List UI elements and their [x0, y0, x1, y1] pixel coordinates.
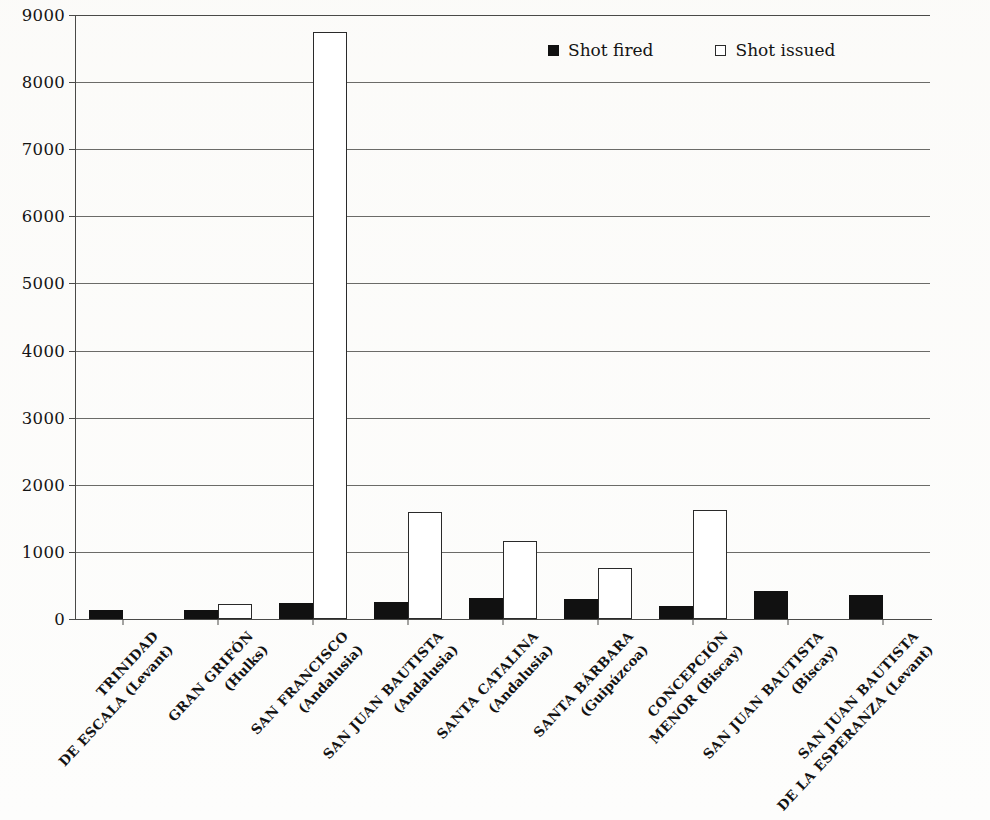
bar-group — [170, 15, 265, 619]
bar-chart: 0100020003000400050006000700080009000 TR… — [0, 0, 990, 820]
bar-shot-fired — [469, 598, 503, 619]
bar-shot-issued — [313, 32, 347, 619]
bar-shot-issued — [408, 512, 442, 619]
legend-label: Shot fired — [568, 40, 653, 60]
y-tick-label: 1000 — [22, 542, 65, 561]
bars-layer — [75, 15, 930, 619]
x-label-line: TRINIDAD — [39, 627, 163, 757]
x-axis-label: TRINIDADDE ESCALA (Levant) — [39, 627, 177, 771]
bar-group — [360, 15, 455, 619]
bar-group — [645, 15, 740, 619]
x-axis-labels: TRINIDADDE ESCALA (Levant)GRAN GRIFÓN(Hu… — [75, 619, 930, 820]
bar-group — [75, 15, 170, 619]
bar-group — [265, 15, 360, 619]
bar-shot-fired — [659, 606, 693, 619]
legend-item: Shot issued — [715, 40, 835, 60]
bar-shot-fired — [89, 610, 123, 619]
bar-shot-issued — [693, 510, 727, 619]
bar-shot-fired — [184, 610, 218, 619]
bar-shot-fired — [279, 603, 313, 619]
legend-label: Shot issued — [735, 40, 835, 60]
bar-shot-issued — [598, 568, 632, 619]
bar-group — [740, 15, 835, 619]
bar-shot-fired — [374, 602, 408, 619]
x-label-line: DE ESCALA (Levant) — [54, 640, 178, 770]
bar-group — [550, 15, 645, 619]
y-tick-label: 7000 — [22, 140, 65, 159]
y-tick-label: 0 — [54, 610, 65, 629]
y-tick-label: 5000 — [22, 274, 65, 293]
bar-shot-fired — [849, 595, 883, 619]
chart-legend: Shot firedShot issued — [548, 40, 835, 60]
y-tick-label: 3000 — [22, 408, 65, 427]
bar-group — [455, 15, 550, 619]
open-square-icon — [715, 45, 726, 56]
y-tick-label: 9000 — [22, 6, 65, 25]
x-axis-label: SAN JUAN BAUTISTADE LA ESPERANZA (Levant… — [758, 627, 937, 815]
filled-square-icon — [548, 45, 559, 56]
bar-shot-issued — [218, 604, 252, 619]
y-tick-label: 4000 — [22, 341, 65, 360]
bar-shot-fired — [564, 599, 598, 619]
legend-item: Shot fired — [548, 40, 653, 60]
bar-shot-fired — [754, 591, 788, 619]
bar-group — [835, 15, 930, 619]
y-tick-label: 2000 — [22, 475, 65, 494]
y-tick-label: 8000 — [22, 73, 65, 92]
y-tick-label: 6000 — [22, 207, 65, 226]
bar-shot-issued — [503, 541, 537, 619]
